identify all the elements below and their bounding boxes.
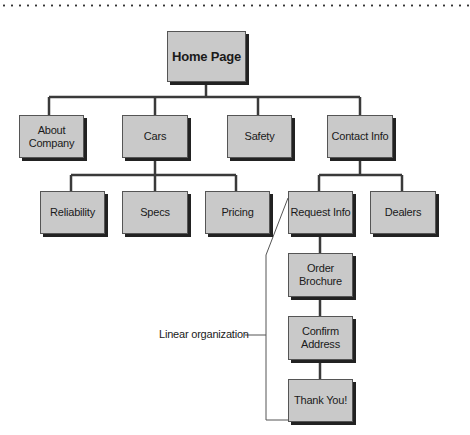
node-label: Contact Info xyxy=(332,130,389,143)
node-label: Thank You! xyxy=(294,394,347,407)
node-reliability: Reliability xyxy=(40,191,105,234)
node-thank-you: Thank You! xyxy=(288,379,353,422)
node-pricing: Pricing xyxy=(205,191,270,234)
node-contact-info: Contact Info xyxy=(327,115,393,158)
node-label: Request Info xyxy=(291,206,351,219)
node-dealers: Dealers xyxy=(370,191,436,234)
node-label: Cars xyxy=(144,130,166,143)
node-label: Dealers xyxy=(385,206,422,219)
node-specs: Specs xyxy=(122,191,188,234)
node-cars: Cars xyxy=(122,115,188,158)
node-confirm-address: Confirm Address xyxy=(288,316,353,360)
node-safety: Safety xyxy=(227,115,292,158)
node-label: Pricing xyxy=(221,206,253,219)
node-label: Reliability xyxy=(50,206,95,219)
node-label: Specs xyxy=(140,206,170,219)
node-label: About Company xyxy=(27,124,77,150)
node-about-company: About Company xyxy=(19,115,84,158)
node-label: Confirm Address xyxy=(296,325,346,351)
node-label: Order Brochure xyxy=(293,262,348,288)
linear-organization-label: Linear organization xyxy=(159,328,249,340)
node-home-page: Home Page xyxy=(167,31,246,82)
node-label: Home Page xyxy=(172,50,241,63)
node-order-brochure: Order Brochure xyxy=(288,253,353,297)
node-request-info: Request Info xyxy=(288,191,353,234)
node-label: Safety xyxy=(245,130,275,143)
